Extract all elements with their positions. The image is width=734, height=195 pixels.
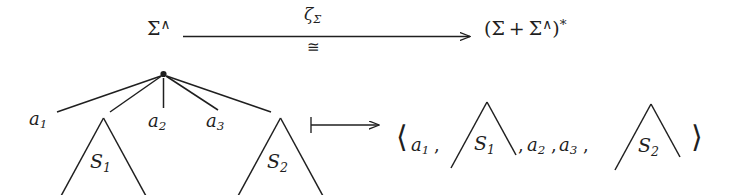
target-object: (Σ+Σ∧)* — [484, 18, 567, 38]
target-close-paren: ) — [552, 17, 559, 39]
tuple-item-s1: S1 — [474, 134, 495, 156]
tuple-separator-3: , — [551, 136, 557, 154]
tree-leaf-a1-subscript: 1 — [40, 117, 48, 131]
mapsto-arrow — [311, 117, 379, 133]
tuple-a1-subscript: 1 — [422, 143, 430, 157]
subtree-s2-base: S — [267, 150, 280, 172]
tuple-a3-base: a — [559, 134, 570, 155]
source-object-superscript: ∧ — [160, 16, 170, 32]
tree-edge-a3 — [166, 76, 218, 110]
tree-edge-s1 — [110, 76, 162, 112]
tuple-item-a3: a3 — [559, 136, 577, 157]
left-tree — [57, 71, 323, 195]
tree-edge-a1 — [57, 76, 161, 112]
source-object: Σ∧ — [147, 18, 170, 38]
tuple-s2-base: S — [638, 134, 651, 156]
source-object-base: Σ — [147, 17, 160, 39]
tuple-separator-4: , — [583, 136, 589, 154]
iso-arrow-label-base: ζ — [304, 4, 313, 24]
tuple-item-s2: S2 — [638, 136, 659, 158]
tree-leaf-label-a3: a3 — [206, 112, 224, 133]
tuple-close-bracket: ⟩ — [691, 122, 703, 152]
tuple-item-a2: a2 — [527, 136, 545, 157]
target-first-symbol: Σ — [491, 17, 504, 39]
tree-leaf-label-a2: a2 — [148, 112, 166, 133]
tuple-a1-base: a — [411, 134, 422, 155]
subtree-label-s1: S1 — [90, 152, 111, 174]
tree-leaf-a3-subscript: 3 — [217, 119, 225, 133]
tree-leaf-a2-subscript: 2 — [159, 119, 167, 133]
tree-leaf-a3-base: a — [206, 110, 217, 131]
iso-arrow-label-below: ≅ — [307, 40, 320, 55]
tree-edge-s2 — [167, 76, 272, 112]
iso-arrow-label-subscript: Σ — [313, 13, 321, 26]
tuple-item-a1: a1 — [411, 136, 429, 157]
tree-leaf-a1-base: a — [29, 108, 40, 129]
target-kleene-star: * — [560, 16, 567, 32]
subtree-label-s2: S2 — [267, 152, 288, 174]
tuple-a3-subscript: 3 — [570, 143, 578, 157]
tuple-separator-2: , — [518, 136, 524, 154]
subtree-s2-subscript: 2 — [280, 160, 288, 175]
tuple-s1-base: S — [474, 132, 487, 154]
tuple-open-bracket: ⟨ — [396, 122, 408, 152]
tree-leaf-a2-base: a — [148, 110, 159, 131]
iso-arrow-label-above: ζΣ — [304, 6, 321, 25]
target-plus-sign: + — [505, 17, 529, 39]
target-second-superscript: ∧ — [542, 16, 552, 32]
tuple-s2-subscript: 2 — [651, 144, 659, 159]
math-figure: Σ∧ ζΣ ≅ (Σ+Σ∧)* a1 a2 a3 S1 S2 ⟨ a1 , S1… — [0, 0, 734, 195]
tuple-a2-subscript: 2 — [538, 143, 546, 157]
tree-leaf-label-a1: a1 — [29, 110, 47, 131]
target-second-symbol: Σ — [529, 17, 542, 39]
subtree-s1-base: S — [90, 150, 103, 172]
tuple-separator-1: , — [434, 136, 440, 154]
tuple-s1-subscript: 1 — [487, 142, 495, 157]
tuple-a2-base: a — [527, 134, 538, 155]
subtree-s1-subscript: 1 — [103, 160, 111, 175]
